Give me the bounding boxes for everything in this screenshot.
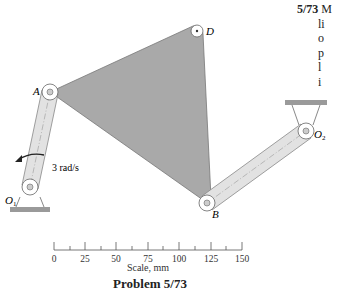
- pin-o2: [298, 123, 314, 139]
- link-b-o2: [202, 124, 311, 210]
- problem-line-1: 5/73 M: [297, 2, 341, 17]
- label-d: D: [205, 25, 214, 37]
- pin-a: [42, 84, 58, 100]
- link-o1-a: [22, 90, 58, 189]
- problem-line-2: li: [297, 17, 341, 32]
- angular-velocity-label: 3 rad/s: [52, 162, 79, 173]
- scale-label: Scale, mm: [98, 262, 198, 273]
- problem-number: 5/73: [297, 2, 318, 16]
- problem-line-4: p: [297, 46, 341, 61]
- problem-caption: Problem 5/73: [0, 276, 300, 292]
- mechanism-figure: A D B O1 O2 3 rad/s 0 25 50 75 100 125 1…: [0, 0, 341, 296]
- svg-text:125: 125: [204, 254, 219, 264]
- svg-text:0: 0: [52, 254, 57, 264]
- ground-support-o2: [285, 100, 327, 125]
- label-a: A: [32, 85, 40, 97]
- triangular-plate: [50, 26, 211, 200]
- label-o2: O2: [314, 128, 326, 142]
- svg-text:25: 25: [80, 254, 90, 264]
- label-b: B: [212, 208, 219, 220]
- problem-line-3: o: [297, 31, 341, 46]
- problem-line-6: i: [297, 75, 341, 90]
- label-o1: O1: [5, 194, 17, 208]
- svg-text:150: 150: [235, 254, 250, 264]
- scale-bar: [54, 242, 242, 250]
- problem-statement: 5/73 M li o p l i: [297, 2, 341, 90]
- problem-line-5: l: [297, 60, 341, 75]
- pin-d: [191, 25, 203, 37]
- pin-o1: [22, 179, 38, 195]
